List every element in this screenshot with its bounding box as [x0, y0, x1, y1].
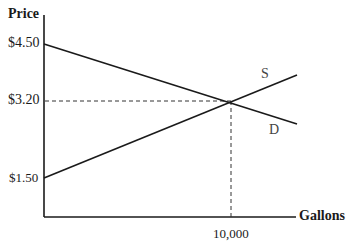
y-tick-high: $4.50: [8, 35, 40, 51]
demand-label: D: [269, 122, 279, 138]
supply-curve: [44, 75, 297, 178]
demand-curve: [44, 44, 297, 124]
x-tick-equilibrium: 10,000: [213, 226, 249, 242]
x-axis-label: Gallons: [299, 208, 345, 224]
supply-label: S: [261, 66, 269, 82]
y-axis-label: Price: [8, 6, 39, 22]
y-tick-low: $1.50: [9, 170, 38, 186]
supply-demand-plot: [0, 0, 347, 243]
y-tick-equilibrium: $3.20: [8, 92, 40, 108]
